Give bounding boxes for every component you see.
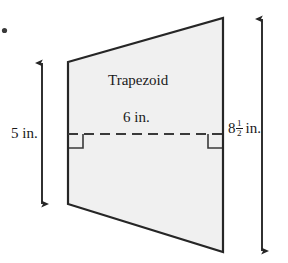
midsegment-length-label: 6 in. (123, 110, 150, 125)
mixed-number: 8 1 2 (228, 119, 243, 139)
fraction: 1 2 (236, 119, 243, 139)
bullet-marker-icon (2, 28, 7, 33)
mixed-number-whole-part: 8 (228, 121, 236, 136)
right-height-label: 8 1 2 in. (228, 119, 261, 139)
fraction-numerator: 1 (236, 119, 243, 128)
shape-name-label: Trapezoid (108, 73, 168, 88)
trapezoid-figure: Trapezoid 6 in. 5 in. 8 1 2 in. (0, 0, 288, 263)
right-height-unit: in. (246, 121, 261, 136)
left-height-label: 5 in. (11, 126, 38, 141)
fraction-denominator: 2 (236, 128, 243, 138)
